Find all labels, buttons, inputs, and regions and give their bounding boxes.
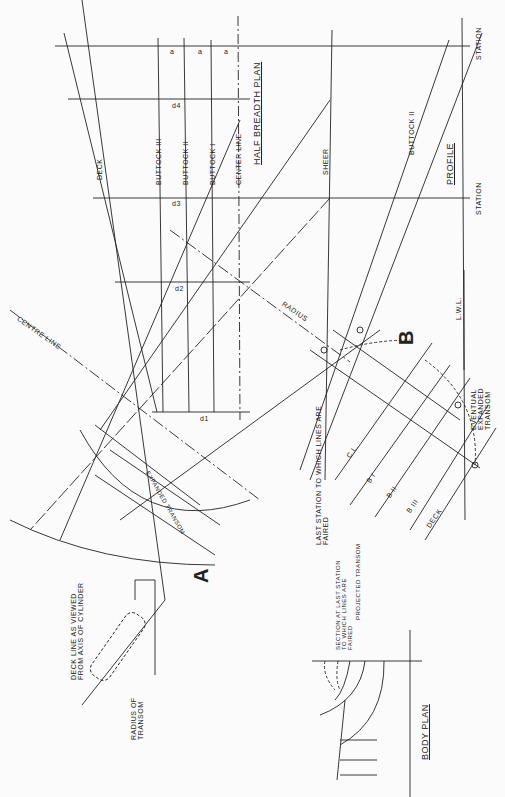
- dimension-a: a: [224, 48, 228, 55]
- dimension-a: a: [198, 48, 202, 55]
- deck-line-cylinder-label: DECK LINE AS VIEWED FROM AXIS OF CYLINDE…: [70, 570, 84, 680]
- buttock-2-label: BUTTOCK II: [182, 141, 189, 185]
- half-breadth-plan-title: HALF BREADTH PLAN: [252, 62, 262, 165]
- station-top-label: STATION: [475, 27, 482, 60]
- eventual-transom-label: EVENTUAL EXPANDED TRANSOM: [470, 350, 491, 430]
- dimension-d3: d3: [172, 200, 181, 207]
- center-line-label: CENTER LINE: [235, 133, 242, 185]
- point-a-label: A: [190, 568, 213, 583]
- point-b-label: B: [395, 330, 418, 345]
- deck-label: DECK: [96, 159, 103, 180]
- lwl-label: L.W.L.: [455, 297, 462, 320]
- profile-title: PROFILE: [445, 143, 455, 185]
- buttock-1-label: BUTTOCK I: [209, 143, 216, 185]
- radius-of-transom-label: RADIUS OF TRANSOM: [130, 695, 144, 740]
- projected-transom-label: PROJECTED TRANSOM: [355, 544, 361, 620]
- section-last-station-label: SECTION AT LAST STATION TO WHICH LINES A…: [335, 560, 353, 650]
- buttock-3-label: BUTTOCK III: [155, 138, 162, 185]
- dimension-d1: d1: [200, 415, 209, 422]
- dimension-a: a: [170, 48, 174, 55]
- buttock-2-profile-label: BUTTOCK II: [408, 111, 415, 155]
- station-mid-label: STATION: [475, 182, 482, 215]
- dimension-d2: d2: [175, 285, 184, 292]
- dimension-d4: d4: [172, 102, 181, 109]
- last-station-label: LAST STATION TO WHICH LINES ARE FAIRED: [315, 395, 329, 545]
- sheer-label: SHEER: [322, 148, 329, 175]
- body-plan-title: BODY PLAN: [420, 704, 430, 760]
- lofting-drawing: DECK BUTTOCK III BUTTOCK II BUTTOCK I CE…: [0, 0, 505, 797]
